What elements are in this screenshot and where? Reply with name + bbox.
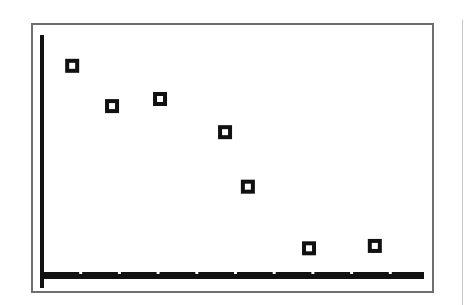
data-point-marker (155, 94, 165, 104)
data-point-marker (220, 127, 230, 137)
data-point-marker (67, 61, 77, 71)
x-tick (311, 272, 314, 274)
data-points (67, 61, 380, 253)
x-tick (195, 272, 198, 274)
data-point-marker (107, 101, 117, 111)
x-tick (157, 272, 160, 274)
x-tick (118, 272, 121, 274)
x-axis (40, 272, 424, 279)
y-axis (40, 35, 44, 288)
scatter-chart (0, 0, 464, 305)
x-tick (273, 272, 276, 274)
axes (40, 35, 424, 288)
data-point-marker (304, 243, 314, 253)
x-tick (350, 272, 353, 274)
data-point-marker (243, 182, 253, 192)
x-tick (389, 272, 392, 274)
x-tick (79, 272, 82, 274)
data-point-marker (370, 241, 380, 251)
x-tick (234, 272, 237, 274)
